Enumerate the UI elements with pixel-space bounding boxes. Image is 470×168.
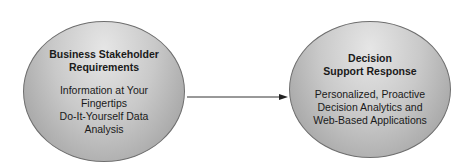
business-stakeholder-requirements-node: Business Stakeholder Requirements Inform… (23, 21, 185, 162)
arrow-connector (187, 92, 289, 102)
node-title: Business Stakeholder Requirements (49, 48, 159, 74)
node-body: Personalized, Proactive Decision Analyti… (313, 88, 427, 127)
node-title: Decision Support Response (323, 52, 416, 78)
node-body: Information at Your Fingertips Do-It-You… (60, 84, 149, 136)
decision-support-response-node: Decision Support Response Personalized, … (289, 21, 451, 158)
